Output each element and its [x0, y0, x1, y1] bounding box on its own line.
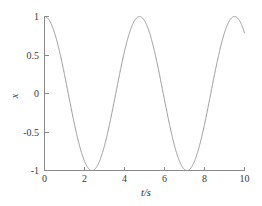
- x-tick-label: 6: [162, 173, 167, 184]
- data-curve: [45, 17, 245, 171]
- line-chart: 1 0.5 0 -0.5 -1 0 2 4 6 8 10 t/s x: [0, 0, 262, 206]
- y-tick-label: -1: [31, 165, 39, 176]
- y-tick-label: 0.5: [27, 50, 40, 61]
- y-tick-marks: [45, 17, 49, 171]
- figure-container: 1 0.5 0 -0.5 -1 0 2 4 6 8 10 t/s x: [0, 0, 262, 206]
- y-axis-title: x: [9, 93, 20, 99]
- x-tick-label: 2: [82, 173, 87, 184]
- x-tick-label: 8: [202, 173, 207, 184]
- x-tick-label: 10: [240, 173, 250, 184]
- x-tick-label: 4: [122, 173, 127, 184]
- y-tick-label: 0: [34, 88, 39, 99]
- axis-spines: [45, 16, 246, 171]
- x-tick-marks: [45, 167, 245, 171]
- x-tick-labels: 0 2 4 6 8 10: [42, 173, 250, 184]
- y-tick-labels: 1 0.5 0 -0.5 -1: [23, 11, 39, 176]
- x-tick-label: 0: [42, 173, 47, 184]
- x-axis-title: t/s: [141, 187, 151, 198]
- y-tick-label: 1: [34, 11, 39, 22]
- y-tick-label: -0.5: [23, 127, 39, 138]
